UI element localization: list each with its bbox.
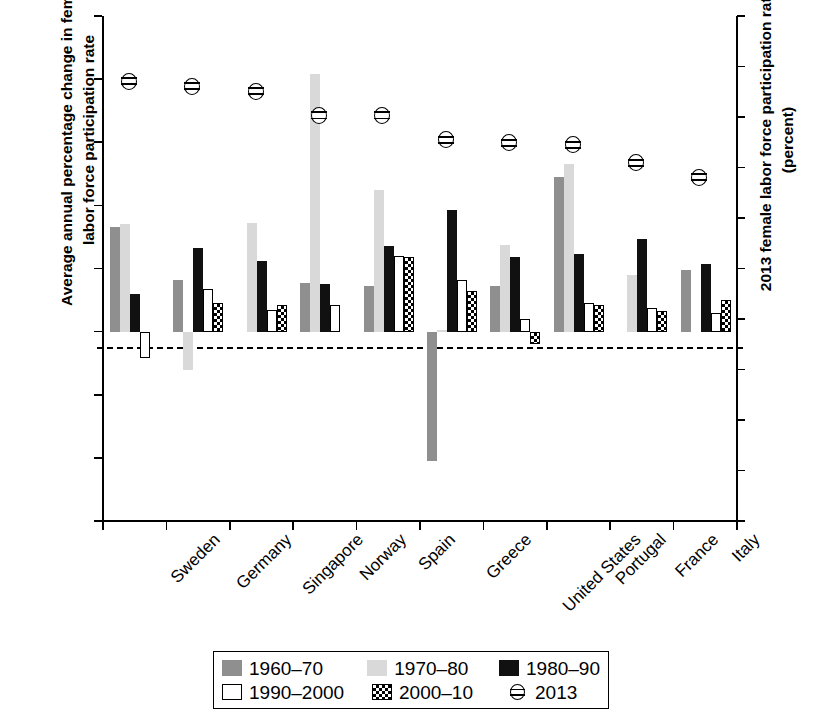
x-tick: [546, 521, 548, 530]
bar-united-states-2000-10: [530, 332, 540, 345]
y-tick-left: [94, 205, 102, 207]
bar-greece-2000-10: [467, 291, 477, 332]
marker-2013-portugal: [565, 136, 581, 153]
y-axis-title-left: Average annual percentage change in fema…: [56, 0, 100, 310]
y-tick-left: [94, 268, 102, 270]
bar-france-1980-90: [637, 239, 647, 332]
x-tick: [356, 521, 358, 530]
bar-spain-1990-2000: [394, 256, 404, 332]
legend: 1960–70 1970–80 1980–90 1990–2000 2000–1…: [213, 651, 609, 709]
x-axis-label-germany: Germany: [233, 530, 297, 594]
legend-item-1960-70: 1960–70: [222, 659, 367, 678]
legend-row-1: 1960–70 1970–80 1980–90: [222, 656, 600, 680]
x-axis-label-italy: Italy: [728, 530, 764, 566]
y-tick-right: [737, 520, 745, 522]
x-axis-label-sweden: Sweden: [167, 530, 225, 588]
marker-2013-germany: [184, 78, 200, 95]
swatch-1990-2000-icon: [222, 684, 242, 700]
legend-label-1970-80: 1970–80: [394, 659, 468, 678]
y-tick-right: [737, 217, 745, 219]
bar-sweden-1980-90: [130, 294, 140, 332]
bar-germany-2000-10: [213, 303, 223, 331]
y-tick-right: [737, 15, 745, 17]
bar-spain-2000-10: [404, 257, 414, 331]
x-tick: [292, 521, 294, 530]
plot-area: 1086420−2−4−69085807570656055504540: [103, 16, 737, 521]
marker-2013-spain: [374, 107, 390, 124]
bar-united-states-1990-2000: [520, 319, 530, 332]
swatch-1970-80-icon: [367, 660, 387, 676]
legend-label-1980-90: 1980–90: [526, 659, 600, 678]
swatch-1980-90-icon: [499, 660, 519, 676]
chart-figure: Average annual percentage change in fema…: [0, 0, 828, 714]
bar-france-1990-2000: [647, 308, 657, 332]
marker-2013-united-states: [501, 134, 517, 151]
legend-row-2: 1990–2000 2000–10 2013: [222, 680, 600, 704]
y-tick-left: [94, 141, 102, 143]
legend-label-2000-10: 2000–10: [399, 683, 473, 702]
bar-norway-1980-90: [320, 284, 330, 331]
bar-portugal-1990-2000: [584, 303, 594, 331]
x-tick: [102, 521, 104, 530]
x-tick: [609, 521, 611, 530]
x-tick: [483, 521, 485, 530]
y-tick-right: [737, 318, 745, 320]
x-axis-label-singapore: Singapore: [298, 530, 367, 599]
y-tick-right: [737, 116, 745, 118]
bar-greece-1960-70: [427, 332, 437, 461]
y-tick-left: [94, 394, 102, 396]
legend-label-2013: 2013: [535, 683, 577, 702]
bar-singapore-1990-2000: [267, 310, 277, 332]
y-tick-left: [94, 15, 102, 17]
bar-italy-1990-2000: [711, 313, 721, 332]
bar-spain-1970-80: [374, 190, 384, 332]
y-tick-right: [737, 66, 745, 68]
bar-italy-2000-10: [721, 300, 731, 332]
bar-spain-1980-90: [384, 246, 394, 331]
y-tick-left: [94, 520, 102, 522]
x-axis-label-spain: Spain: [415, 530, 460, 575]
bar-germany-1990-2000: [203, 289, 213, 332]
y-axis-title-right: 2013 female labor force participation ra…: [755, 0, 799, 310]
legend-label-1960-70: 1960–70: [249, 659, 323, 678]
left-axis-line: [102, 16, 104, 521]
bar-france-2000-10: [657, 311, 667, 332]
bar-greece-1970-80: [437, 330, 447, 332]
y-tick-left: [94, 457, 102, 459]
bar-united-states-1970-80: [500, 245, 510, 332]
bar-portugal-1970-80: [564, 164, 574, 331]
x-tick: [736, 521, 738, 530]
x-axis-label-france: France: [671, 530, 723, 582]
marker-2013-norway: [311, 107, 327, 124]
y-tick-right: [737, 419, 745, 421]
x-tick: [673, 521, 675, 530]
x-tick: [166, 521, 168, 530]
x-axis-label-greece: Greece: [482, 530, 536, 584]
y-tick-right: [737, 470, 745, 472]
legend-item-1980-90: 1980–90: [499, 659, 600, 678]
bar-sweden-1970-80: [120, 224, 130, 331]
legend-item-2000-10: 2000–10: [372, 683, 508, 702]
bar-sweden-1990-2000: [140, 332, 150, 359]
bar-greece-1990-2000: [457, 280, 467, 332]
bar-portugal-1980-90: [574, 254, 584, 331]
y-tick-right: [737, 369, 745, 371]
bar-italy-1980-90: [701, 264, 711, 332]
bar-sweden-1960-70: [110, 227, 120, 331]
bar-germany-1980-90: [193, 248, 203, 332]
y-tick-left: [94, 331, 102, 333]
bar-italy-1960-70: [681, 270, 691, 332]
y-tick-right: [737, 167, 745, 169]
x-tick: [419, 521, 421, 530]
bar-france-1970-80: [627, 275, 637, 332]
bar-norway-1990-2000: [330, 305, 340, 332]
marker-2013-singapore: [248, 83, 264, 100]
y-tick-left: [94, 78, 102, 80]
bar-germany-1970-80: [183, 332, 193, 370]
x-axis-label-norway: Norway: [356, 530, 411, 585]
y-tick-right: [737, 268, 745, 270]
legend-label-1990-2000: 1990–2000: [249, 683, 344, 702]
legend-item-1990-2000: 1990–2000: [222, 683, 372, 702]
swatch-1960-70-icon: [222, 660, 242, 676]
marker-2013-sweden: [121, 73, 137, 90]
